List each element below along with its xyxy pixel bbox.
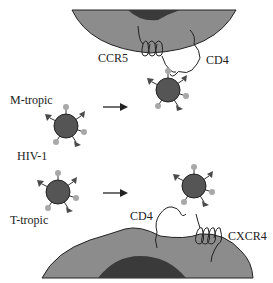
hiv1-label: HIV-1 [17, 149, 47, 163]
arrow-right-icon [103, 103, 128, 111]
ccr5-label: CCR5 [98, 51, 128, 65]
hiv-tropism-diagram: CCR5 CD4 M-tropic HIV-1 T-tropic CD4 CXC… [0, 0, 273, 283]
t-tropic-label: T-tropic [10, 213, 48, 227]
m-tropic-virion-bound [147, 68, 189, 111]
arrow-right-icon [103, 189, 128, 197]
m-tropic-label: M-tropic [10, 93, 53, 107]
top-cell [72, 10, 236, 53]
m-tropic-virion-free [45, 104, 87, 147]
cxcr4-label: CXCR4 [228, 229, 267, 243]
cd4-bottom-label: CD4 [130, 209, 153, 223]
t-tropic-virion-bound [173, 164, 215, 207]
t-tropic-virion-free [37, 170, 79, 213]
cd4-top-label: CD4 [206, 53, 229, 67]
